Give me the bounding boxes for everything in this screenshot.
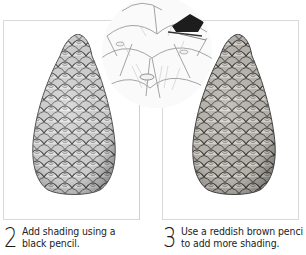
step-instruction-line-1: Use a reddish brown penci [181,226,303,238]
step-number: 3 [163,224,174,251]
step-2-caption: 2 Add shading using a black pencil. [4,224,124,251]
step-instruction-line-2: to add more shading. [181,238,303,250]
step-3-caption: 3 Use a reddish brown penci to add more … [163,224,306,251]
step-number: 2 [4,224,15,251]
step-instruction: Use a reddish brown penci to add more sh… [181,224,303,249]
step-instruction-line-2: black pencil. [22,238,115,250]
magnified-detail-circle [102,0,212,108]
step-instruction-line-1: Add shading using a [22,226,115,238]
cone-scales-closeup-icon [102,0,212,108]
step-instruction: Add shading using a black pencil. [22,224,115,249]
